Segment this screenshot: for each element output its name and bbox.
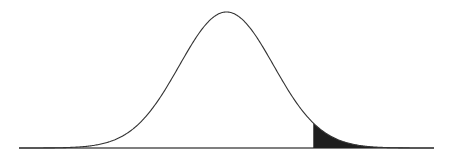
shaded-right-tail xyxy=(313,123,434,148)
normal-distribution-chart xyxy=(0,0,452,158)
normal-curve xyxy=(19,12,434,148)
